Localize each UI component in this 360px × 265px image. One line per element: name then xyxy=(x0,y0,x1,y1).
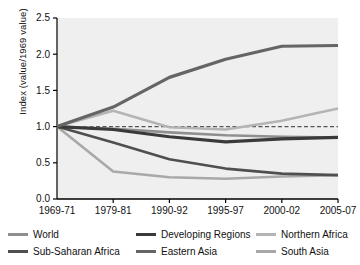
legend-label-sub-saharan-africa: Sub-Saharan Africa xyxy=(33,246,120,258)
x-tick-label: 1995-97 xyxy=(207,205,244,216)
x-tick-label: 1979-81 xyxy=(95,205,132,216)
y-tick-label: 2.0 xyxy=(36,49,50,60)
x-tick-label: 2005-07 xyxy=(320,205,357,216)
legend-swatch-eastern-asia xyxy=(136,250,156,253)
legend-item-eastern-asia[interactable]: Eastern Asia xyxy=(136,246,256,258)
y-tick-label: 0.0 xyxy=(36,193,50,204)
legend-item-south-asia[interactable]: South Asia xyxy=(256,246,356,258)
x-tick-label: 2000-02 xyxy=(263,205,300,216)
x-tick-label: 1990-92 xyxy=(151,205,188,216)
legend-swatch-sub-saharan-africa xyxy=(8,250,28,253)
y-tick-label: 2.5 xyxy=(36,12,50,23)
legend-swatch-world xyxy=(8,233,28,236)
legend-item-sub-saharan-africa[interactable]: Sub-Saharan Africa xyxy=(8,246,136,258)
y-tick-label: 1.5 xyxy=(36,85,50,96)
y-tick-label: 0.5 xyxy=(36,157,50,168)
legend-swatch-developing-regions xyxy=(136,233,156,236)
legend-swatch-northern-africa xyxy=(256,233,276,236)
legend-label-south-asia: South Asia xyxy=(281,246,329,258)
legend-label-northern-africa: Northern Africa xyxy=(281,229,348,241)
legend-item-developing-regions[interactable]: Developing Regions xyxy=(136,229,256,241)
y-tick-label: 1.0 xyxy=(36,121,50,132)
legend-item-world[interactable]: World xyxy=(8,229,136,241)
legend-label-developing-regions: Developing Regions xyxy=(161,229,251,241)
legend-swatch-south-asia xyxy=(256,250,276,253)
legend-label-world: World xyxy=(33,229,59,241)
chart-figure: Index (value/1969 value) 0.00.51.01.52.0… xyxy=(0,0,360,265)
legend-label-eastern-asia: Eastern Asia xyxy=(161,246,217,258)
chart-legend: World Developing Regions Northern Africa… xyxy=(8,226,358,260)
x-tick-label: 1969-71 xyxy=(39,205,76,216)
legend-item-northern-africa[interactable]: Northern Africa xyxy=(256,229,356,241)
